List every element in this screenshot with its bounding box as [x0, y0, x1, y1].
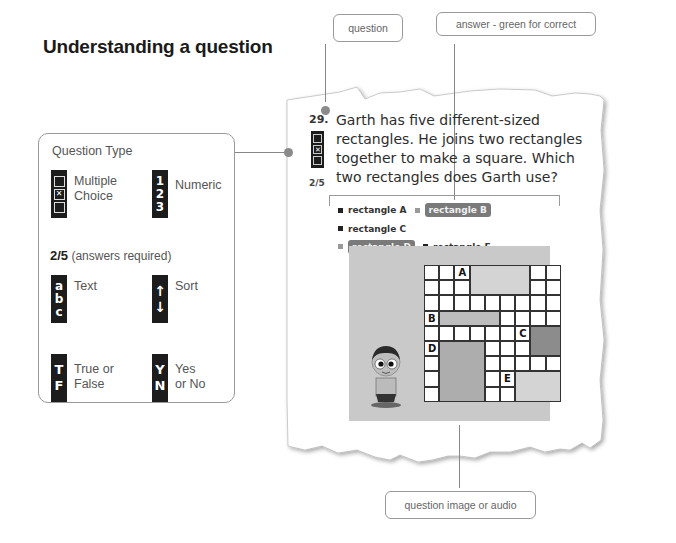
answer-option-c[interactable]: rectangle C [338, 224, 406, 234]
yes-no-icon: YN [152, 354, 168, 402]
grid-cell [515, 295, 530, 310]
grid-cell [515, 341, 530, 356]
type-connector [235, 152, 288, 153]
grid-cell [530, 311, 545, 326]
grid-cell [546, 280, 561, 295]
grid-cell [424, 371, 439, 386]
grid-cell [546, 295, 561, 310]
grid-cell [439, 265, 454, 280]
question-text: Garth has five different-sized rectangle… [336, 111, 601, 187]
type-text: abc Text [51, 275, 97, 323]
true-false-icon: TF [51, 354, 67, 402]
numeric-icon: 123 [152, 170, 168, 218]
sort-icon: ↑↓ [152, 275, 168, 323]
grid-cell [530, 280, 545, 295]
multiple-choice-icon: ✕ [311, 131, 324, 168]
boy-character-icon [366, 342, 406, 408]
grid-cell [424, 295, 439, 310]
grid-cell [500, 341, 515, 356]
grid-label-e: E [504, 373, 511, 384]
grid-cell [439, 280, 454, 295]
rectangle-b [439, 311, 500, 326]
grid-cell [454, 295, 469, 310]
grid-label-d: D [428, 343, 436, 354]
grid-cell [530, 265, 545, 280]
grid-label-c: C [519, 328, 526, 339]
rectangle-e [515, 371, 561, 401]
rectangle-d [439, 341, 485, 402]
answer-option-b[interactable]: rectangle B [415, 203, 491, 217]
rectangle-c [530, 326, 560, 356]
grid-cell [470, 295, 485, 310]
image-callout: question image or audio [385, 491, 536, 519]
grid-cell [500, 311, 515, 326]
grid-cell [546, 311, 561, 326]
type-sort: ↑↓ Sort [152, 275, 198, 323]
grid-cell [424, 265, 439, 280]
rectangle-a [470, 265, 531, 295]
grid-label-b: B [428, 313, 436, 324]
grid-cell [454, 280, 469, 295]
grid-cell [485, 356, 500, 371]
question-number: 29. [309, 113, 329, 126]
grid-cell [500, 295, 515, 310]
image-connector [459, 425, 460, 488]
grid-cell [515, 356, 530, 371]
grid-cell [530, 356, 545, 371]
grid-cell [424, 280, 439, 295]
grid-cell [485, 326, 500, 341]
grid-cell [546, 356, 561, 371]
type-dot [284, 148, 293, 157]
grid-cell [485, 387, 500, 402]
text-icon: abc [51, 275, 67, 323]
type-true-false: TF True or False [51, 354, 114, 402]
type-numeric: 123 Numeric [152, 170, 222, 218]
question-connector [325, 44, 326, 102]
question-type-title: Question Type [52, 144, 132, 158]
grid-cell [424, 356, 439, 371]
answer-callout: answer - green for correct [436, 12, 596, 36]
type-yes-no: YN Yes or No [152, 354, 206, 402]
grid-label-a: A [458, 267, 466, 278]
grid-cell [515, 311, 530, 326]
question-type-panel: Question Type ✕ Multiple Choice 123 Nume… [38, 133, 235, 403]
grid-cell [485, 295, 500, 310]
grid-cell [424, 326, 439, 341]
question-callout: question [333, 14, 403, 42]
type-multiple-choice: ✕ Multiple Choice [51, 170, 117, 218]
question-fraction: 2/5 [309, 178, 325, 188]
grid-cell [500, 356, 515, 371]
grid-cell [454, 326, 469, 341]
grid-cell [500, 326, 515, 341]
answers-required: 2/5 (answers required) [50, 248, 171, 263]
grid-cell [470, 326, 485, 341]
answer-option-a[interactable]: rectangle A [338, 205, 406, 215]
multiple-choice-icon: ✕ [51, 170, 67, 218]
grid-cell [546, 265, 561, 280]
grid-cell [485, 371, 500, 386]
grid-cell [530, 295, 545, 310]
grid-cell [485, 341, 500, 356]
grid-cell [439, 326, 454, 341]
grid-cell [439, 295, 454, 310]
grid-cell [500, 387, 515, 402]
grid-cell [424, 387, 439, 402]
